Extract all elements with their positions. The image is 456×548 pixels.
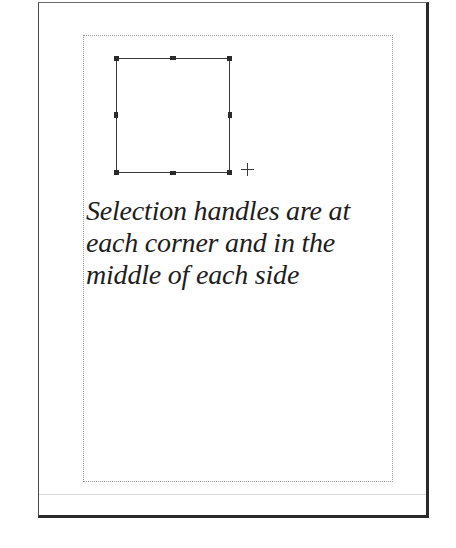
caption-line: Selection handles are at: [86, 195, 386, 227]
caption-line: each corner and in the: [86, 227, 386, 259]
caption-text: Selection handles are at each corner and…: [86, 195, 386, 291]
caption-line: middle of each side: [86, 259, 386, 291]
selection-handle-middle-left[interactable]: [114, 112, 118, 118]
selection-handle-middle-right[interactable]: [228, 112, 232, 118]
document-page: Selection handles are at each corner and…: [38, 2, 429, 518]
selection-handle-top-left[interactable]: [114, 56, 119, 61]
selection-handle-bottom-middle[interactable]: [170, 171, 176, 175]
selection-handle-bottom-left[interactable]: [114, 170, 119, 175]
page-divider-line: [39, 494, 426, 495]
selection-handle-top-middle[interactable]: [170, 56, 176, 60]
selection-handle-top-right[interactable]: [227, 56, 232, 61]
crosshair-cursor-icon: [241, 163, 254, 176]
selected-rectangle-shape[interactable]: [116, 58, 230, 173]
selection-handle-bottom-right[interactable]: [227, 170, 232, 175]
